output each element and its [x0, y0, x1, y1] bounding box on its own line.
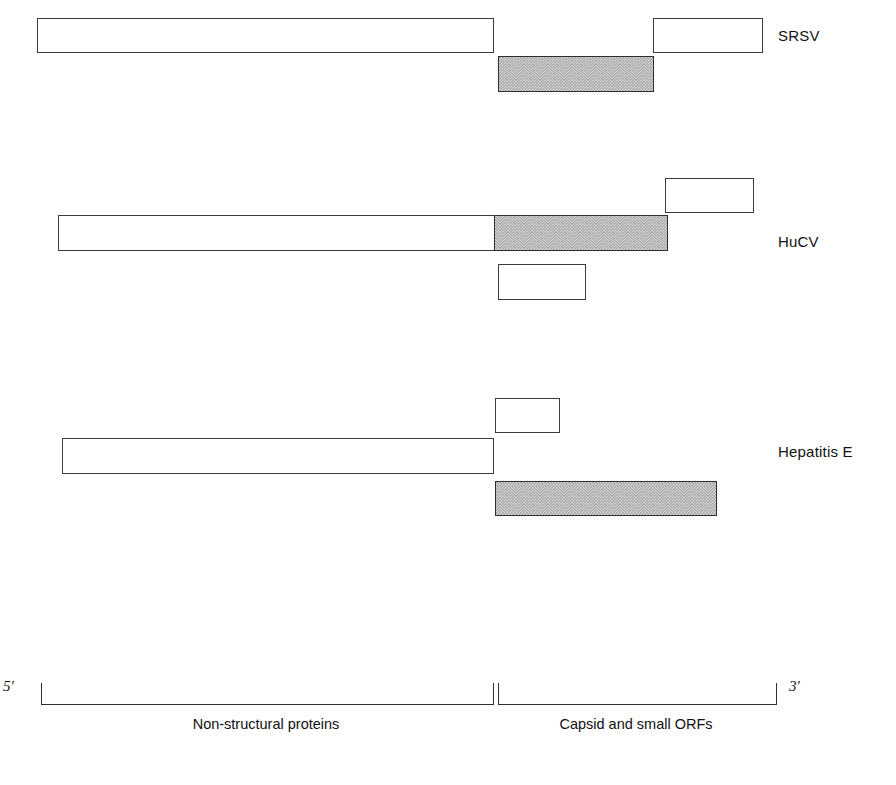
- orf-box-hepatitis-e-orf3: [495, 398, 560, 433]
- orf-box-srsv-orf1: [37, 18, 494, 53]
- genome-label-srsv: SRSV: [778, 27, 820, 44]
- orf-box-srsv-orf2: [498, 56, 654, 92]
- genome-label-hucv: HuCV: [778, 233, 819, 250]
- scale-bracket-non-structural: [41, 683, 494, 705]
- orf-box-hucv-orf1-capsid: [494, 215, 668, 251]
- three-prime-label: 3′: [789, 678, 800, 695]
- genome-label-hepatitis-e: Hepatitis E: [778, 443, 853, 460]
- region-label-capsid: Capsid and small ORFs: [486, 716, 786, 732]
- region-label-non-structural: Non-structural proteins: [116, 716, 416, 732]
- scale-bracket-capsid: [498, 683, 777, 705]
- orf-box-hucv-orf3: [498, 264, 586, 300]
- figure-canvas: SRSVHuCVHepatitis E5′3′Non-structural pr…: [0, 0, 896, 785]
- orf-box-hucv-orf1-nonstructural: [58, 215, 495, 251]
- orf-box-hepatitis-e-orf1: [62, 438, 494, 474]
- orf-box-hucv-orf2: [665, 178, 754, 213]
- five-prime-label: 5′: [3, 678, 14, 695]
- orf-box-hepatitis-e-orf2: [495, 481, 717, 516]
- orf-box-srsv-orf3: [653, 18, 763, 53]
